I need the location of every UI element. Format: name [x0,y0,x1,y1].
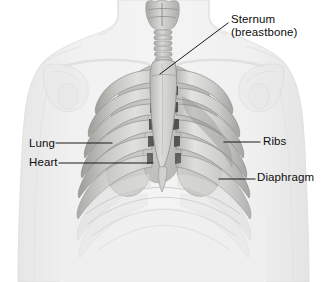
label-sternum: Sternum (breastbone) [231,13,297,39]
label-lung: Lung [29,137,55,150]
label-heart: Heart [29,156,58,169]
label-diaphragm: Diaphragm [257,171,314,184]
label-sternum-line2: (breastbone) [231,26,297,39]
label-sternum-line1: Sternum [231,13,275,25]
anatomy-figure: Sternum (breastbone) Lung Heart Ribs Dia… [0,0,327,282]
larynx [146,1,179,31]
label-ribs: Ribs [263,135,286,148]
